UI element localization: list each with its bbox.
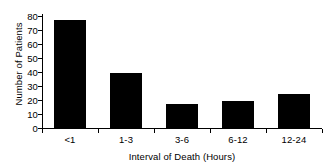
x-tick-label: <1 — [42, 133, 98, 146]
bar-chart: Number of Patients 01020304050607080 <11… — [0, 0, 333, 168]
y-tick-label: 0 — [14, 123, 38, 134]
y-axis-tick-labels: 01020304050607080 — [14, 10, 38, 134]
bar — [278, 94, 310, 128]
bar — [222, 101, 254, 128]
x-axis-line — [42, 128, 322, 129]
y-tick-label: 10 — [14, 109, 38, 120]
y-tick-label: 40 — [14, 67, 38, 78]
x-tick-label: 3-6 — [154, 133, 210, 146]
x-axis-title: Interval of Death (Hours) — [42, 150, 322, 163]
bar — [110, 73, 142, 128]
y-tick-label: 60 — [14, 39, 38, 50]
bars-layer — [42, 16, 322, 128]
x-tick-label: 6-12 — [210, 133, 266, 146]
x-tick-mark — [322, 129, 323, 133]
y-tick-label: 20 — [14, 95, 38, 106]
x-tick-label: 12-24 — [266, 133, 322, 146]
plot-area — [42, 16, 322, 128]
bar — [54, 20, 86, 128]
y-tick-label: 80 — [14, 11, 38, 22]
x-tick-label: 1-3 — [98, 133, 154, 146]
y-tick-label: 30 — [14, 81, 38, 92]
x-axis-tick-labels: <11-33-66-1212-24 — [42, 133, 322, 146]
y-tick-label: 50 — [14, 53, 38, 64]
y-tick-label: 70 — [14, 25, 38, 36]
bar — [166, 104, 198, 128]
